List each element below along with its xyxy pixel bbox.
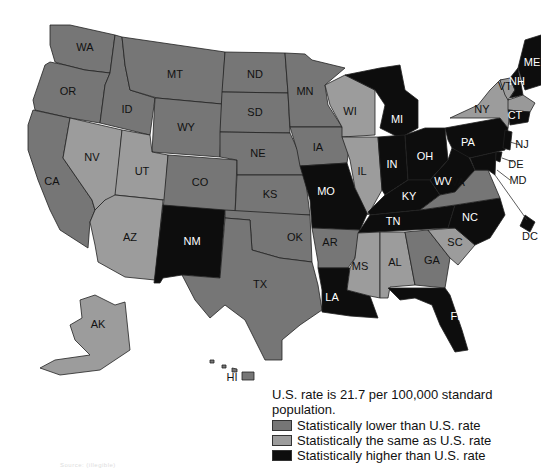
state-label-GA: GA bbox=[424, 254, 441, 266]
source-note: Source: (illegible) bbox=[60, 462, 116, 468]
state-label-UT: UT bbox=[135, 165, 150, 177]
legend-item-higher: Statistically higher than U.S. rate bbox=[272, 448, 541, 463]
legend: U.S. rate is 21.7 per 100,000 standard p… bbox=[272, 387, 541, 463]
state-label-CA: CA bbox=[44, 175, 60, 187]
legend-swatch-lower bbox=[272, 420, 292, 431]
legend-item-lower: Statistically lower than U.S. rate bbox=[272, 418, 541, 433]
state-label-WV: WV bbox=[434, 175, 452, 187]
state-label-MD: MD bbox=[509, 174, 526, 186]
state-label-LA: LA bbox=[325, 291, 339, 303]
state-label-DC: DC bbox=[522, 230, 538, 242]
state-label-IN: IN bbox=[387, 158, 398, 170]
state-label-TX: TX bbox=[253, 278, 268, 290]
legend-label-lower: Statistically lower than U.S. rate bbox=[297, 418, 481, 433]
state-label-VA: VA bbox=[451, 176, 466, 188]
state-AK bbox=[40, 295, 130, 375]
state-label-OK: OK bbox=[287, 231, 304, 243]
state-label-TN: TN bbox=[386, 215, 401, 227]
state-label-NM: NM bbox=[183, 235, 200, 247]
legend-title: U.S. rate is 21.7 per 100,000 standard p… bbox=[272, 387, 541, 417]
state-label-CT: CT bbox=[508, 109, 523, 121]
legend-swatch-same bbox=[272, 435, 292, 446]
state-label-HI: HI bbox=[227, 371, 238, 383]
state-label-AL: AL bbox=[388, 256, 401, 268]
state-label-NC: NC bbox=[462, 211, 478, 223]
state-label-OR: OR bbox=[60, 85, 77, 97]
legend-label-same: Statistically the same as U.S. rate bbox=[297, 433, 491, 448]
state-label-WY: WY bbox=[177, 121, 195, 133]
state-label-SD: SD bbox=[247, 106, 262, 118]
state-label-OH: OH bbox=[417, 150, 434, 162]
state-label-PA: PA bbox=[461, 136, 476, 148]
state-label-NH: NH bbox=[509, 75, 525, 87]
state-label-IL: IL bbox=[357, 165, 366, 177]
state-label-MT: MT bbox=[167, 68, 183, 80]
state-label-KS: KS bbox=[263, 188, 278, 200]
state-label-ND: ND bbox=[247, 68, 263, 80]
state-label-ID: ID bbox=[122, 103, 133, 115]
state-label-NJ: NJ bbox=[515, 138, 528, 150]
state-label-MO: MO bbox=[317, 185, 335, 197]
state-label-CO: CO bbox=[192, 176, 209, 188]
state-label-MI: MI bbox=[391, 113, 403, 125]
state-label-ME: ME bbox=[524, 56, 541, 68]
state-label-NV: NV bbox=[84, 151, 100, 163]
state-NJ bbox=[503, 130, 512, 150]
state-label-DE: DE bbox=[508, 158, 523, 170]
legend-item-same: Statistically the same as U.S. rate bbox=[272, 433, 541, 448]
legend-label-higher: Statistically higher than U.S. rate bbox=[297, 448, 486, 463]
state-label-WA: WA bbox=[76, 41, 94, 53]
state-label-WI: WI bbox=[343, 105, 356, 117]
state-label-SC: SC bbox=[447, 236, 462, 248]
state-label-MN: MN bbox=[296, 85, 313, 97]
state-label-MS: MS bbox=[352, 260, 369, 272]
state-label-NY: NY bbox=[474, 103, 490, 115]
state-label-NE: NE bbox=[250, 147, 265, 159]
state-label-FL: FL bbox=[451, 310, 464, 322]
legend-swatch-higher bbox=[272, 450, 292, 461]
state-label-KY: KY bbox=[402, 190, 417, 202]
state-label-AZ: AZ bbox=[123, 231, 137, 243]
state-label-AK: AK bbox=[91, 318, 106, 330]
state-label-IA: IA bbox=[313, 141, 324, 153]
state-label-AR: AR bbox=[322, 236, 337, 248]
